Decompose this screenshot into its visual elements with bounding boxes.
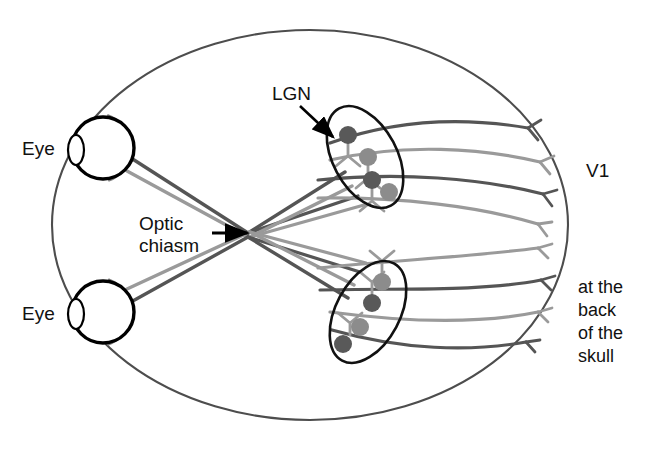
axon-terminal-8 [526,340,540,352]
skull-label-line1: at the [578,277,623,297]
optic-tract-bottom-light [250,232,354,285]
eye-bottom-label: Eye [22,303,55,324]
optic-chiasm-label-line2: chiasm [139,235,199,256]
lgn-cell-top-1 [339,126,357,144]
lgn-cell-bottom-4 [334,335,352,353]
lgn-cell-top-2 [359,148,377,166]
axon-terminal-5 [538,244,552,258]
eye-top-group [68,116,134,180]
optic-tract-top-dark-2 [248,196,358,233]
lgn-cell-bottom-3 [351,318,369,336]
visual-pathway-diagram: Visual pathway from the eyes through the… [0,0,661,465]
lgn-cell-bottom-1 [373,273,391,291]
skull-label-line2: back [578,300,617,320]
radiation-4 [318,198,538,224]
lens-top [68,135,84,165]
skull-label-line4: skull [578,346,614,366]
optic-chiasm-label-line1: Optic [139,213,183,234]
lgn-cell-bottom-2 [363,294,381,312]
axon-terminal-7 [538,308,552,322]
axon-terminal-4 [538,222,552,236]
v1-label: V1 [586,160,609,181]
eye-top-label: Eye [22,138,55,159]
visual-pathway-svg: Visual pathway from the eyes through the… [0,0,661,465]
skull-label-line3: of the [578,323,623,343]
axon-terminal-3 [543,190,557,206]
v1-axon-terminals [526,120,557,352]
axon-terminal-6 [541,276,555,290]
radiation-1 [330,122,528,143]
eye-bottom-group [68,280,134,344]
optic-radiations [318,122,543,348]
lgn-cell-top-3 [363,171,381,189]
lgn-label: LGN [272,83,311,104]
lgn-cell-top-4 [380,183,398,201]
lens-bottom [68,299,84,329]
